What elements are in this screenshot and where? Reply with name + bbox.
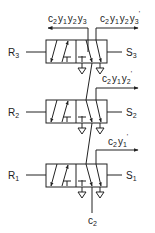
tap-output-2-line (96, 88, 138, 100)
input-c2-label: c2 (88, 215, 97, 227)
reset-3-label: R3 (8, 47, 19, 59)
top-output-right-label: c2y1y2y3' (100, 10, 140, 25)
top-output-right-line (96, 28, 138, 40)
valve-2 (26, 100, 122, 134)
valve-3 (26, 40, 122, 74)
exhaust-icon (78, 63, 86, 74)
tap-output-2-label: c2y1y2' (102, 70, 132, 85)
reset-1-label: R1 (8, 170, 19, 182)
tap-output-1-line (96, 150, 138, 164)
set-3-label: S3 (126, 47, 137, 59)
reset-2-label: R2 (8, 107, 19, 119)
set-1-label: S1 (126, 170, 137, 182)
valve-1 (26, 164, 122, 198)
top-output-left-label: c2y1y2y3 (48, 13, 87, 25)
blocked-port (78, 56, 86, 62)
tap-output-1-label: c2y1' (108, 133, 128, 148)
set-2-label: S2 (126, 107, 137, 119)
valve-cascade-diagram: c2y1y2y3 c2y1y2y3' R3 S3 R2 S2 R1 S1 c2y… (0, 0, 155, 233)
